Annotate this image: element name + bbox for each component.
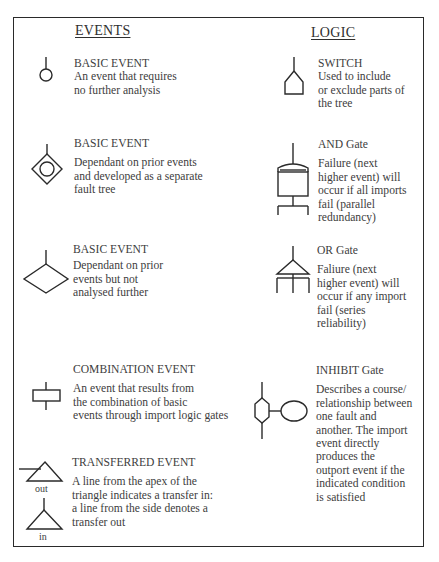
rectangle-icon <box>32 382 62 412</box>
event-basic-separate-tree: BASIC EVENT Dependant on prior events an… <box>74 137 203 197</box>
logic-heading: LOGIC <box>311 25 355 41</box>
entry-desc-line: and developed as a separate <box>74 170 203 183</box>
event-transferred: TRANSFERRED EVENT A line from the apex o… <box>72 456 213 529</box>
entry-desc-line: fail (series <box>317 304 406 317</box>
entry-desc-line: is satisfied <box>316 491 412 504</box>
entry-desc-line: fail (parallel <box>318 198 407 211</box>
entry-desc-line: occur if all imports <box>318 184 407 197</box>
or-gate-icon <box>276 246 310 294</box>
events-heading: EVENTS <box>75 23 130 39</box>
entry-desc-line: relationship between <box>316 397 412 410</box>
entry-desc-line: An event that results from <box>73 382 228 395</box>
entry-title: BASIC EVENT <box>74 57 177 70</box>
and-gate-icon <box>277 143 311 215</box>
diamond-with-circle-icon <box>31 144 63 186</box>
entry-desc-line: one fault and <box>316 410 412 423</box>
entry-desc-line: A line from the apex of the <box>72 475 213 488</box>
entry-desc-line: no further analysis <box>74 84 177 97</box>
logic-or-gate: OR Gate Faliure (next higher event) will… <box>317 244 406 330</box>
diamond-icon <box>23 250 69 294</box>
entry-desc-line: Used to include <box>318 70 405 83</box>
entry-desc-line: redundancy) <box>318 211 407 224</box>
entry-desc-line: higher event) will <box>317 277 406 290</box>
entry-desc-line: reliability) <box>317 317 406 330</box>
entry-desc-line: events but not <box>73 273 163 286</box>
entry-desc-line: a line from the side denotes a <box>72 502 213 515</box>
entry-desc-line: outport event if the <box>316 464 412 477</box>
entry-title: BASIC EVENT <box>73 243 163 256</box>
entry-desc-line: or exclude parts of <box>318 84 405 97</box>
entry-desc-line: triangle indicates a transfer in: <box>72 489 213 502</box>
inhibit-gate-icon <box>253 382 309 440</box>
entry-title: INHIBIT Gate <box>316 364 412 377</box>
entry-desc-line: another. The import <box>316 424 412 437</box>
entry-title: OR Gate <box>317 244 406 257</box>
entry-desc-line: Describes a course/ <box>316 383 412 396</box>
entry-desc-line: produces the <box>316 450 412 463</box>
entry-desc-line: indicated condition <box>316 477 412 490</box>
logic-inhibit-gate: INHIBIT Gate Describes a course/ relatio… <box>316 364 412 504</box>
entry-title: AND Gate <box>318 138 407 151</box>
entry-desc-line: fault tree <box>74 183 203 196</box>
entry-title: COMBINATION EVENT <box>73 363 228 376</box>
event-basic-no-analysis: BASIC EVENT An event that requires no fu… <box>74 57 177 97</box>
logic-and-gate: AND Gate Failure (next higher event) wil… <box>318 138 407 224</box>
entry-title: BASIC EVENT <box>74 137 203 150</box>
transfer-out-label: out <box>35 483 48 494</box>
entry-desc-line: transfer out <box>72 516 213 529</box>
entry-desc-line: the tree <box>318 97 405 110</box>
transfer-out-triangle-icon <box>19 461 64 485</box>
logic-switch: SWITCH Used to include or exclude parts … <box>318 57 405 111</box>
entry-desc-line: Dependant on prior events <box>74 156 203 169</box>
entry-desc-line: event directly <box>316 437 412 450</box>
entry-desc-line: An event that requires <box>74 70 177 83</box>
event-basic-not-analysed: BASIC EVENT Dependant on prior events bu… <box>73 243 163 300</box>
transfer-in-triangle-icon <box>26 498 66 532</box>
entry-title: SWITCH <box>318 57 405 70</box>
entry-desc-line: higher event) will <box>318 171 407 184</box>
entry-desc-line: Dependant on prior <box>73 259 163 272</box>
entry-desc-line: analysed further <box>73 286 163 299</box>
entry-desc-line: the combination of basic <box>73 396 228 409</box>
entry-desc-line: occur if any import <box>317 290 406 303</box>
entry-desc-line: Faliure (next <box>317 263 406 276</box>
switch-icon <box>284 57 304 95</box>
entry-desc-line: events through import logic gates <box>73 409 228 422</box>
event-combination: COMBINATION EVENT An event that results … <box>73 363 228 423</box>
basic-event-circle-icon <box>38 57 58 87</box>
entry-desc-line: Failure (next <box>318 157 407 170</box>
transfer-in-label: in <box>39 531 47 542</box>
entry-title: TRANSFERRED EVENT <box>72 456 213 469</box>
